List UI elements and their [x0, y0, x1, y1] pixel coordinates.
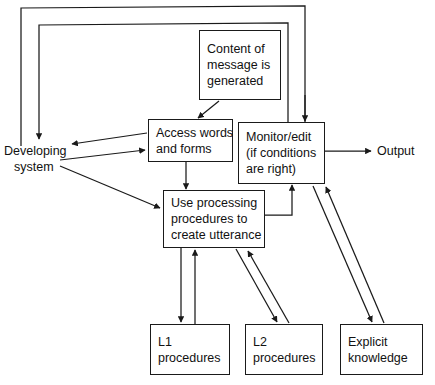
l1-procedures-box[interactable]: L1 procedures	[150, 324, 230, 375]
access-words-line-2: and forms	[156, 141, 232, 157]
access-words-line-1: Access words	[156, 125, 232, 141]
l2-procedures-box[interactable]: L2 procedures	[245, 324, 323, 375]
l1-line-2: procedures	[158, 350, 229, 366]
edge-use-processing-to-l2	[236, 249, 277, 322]
monitor-edit-line-1: Monitor/edit	[246, 129, 324, 145]
monitor-edit-line-2: (if conditions	[246, 145, 324, 161]
edge-l2-to-use-processing	[248, 251, 289, 323]
edge-developing-to-use-processing	[60, 166, 160, 208]
access-words-and-forms-box[interactable]: Access words and forms	[148, 119, 233, 162]
content-of-message-line-1: Content of	[207, 41, 280, 57]
explicit-knowledge-line-1: Explicit	[348, 334, 422, 350]
l2-line-1: L2	[253, 334, 322, 350]
content-of-message-line-3: generated	[207, 73, 280, 89]
explicit-knowledge-line-2: knowledge	[348, 350, 422, 366]
use-processing-line-3: create utterance	[171, 227, 264, 243]
edge-monitor-to-explicit	[313, 186, 372, 322]
content-of-message-line-2: message is	[207, 57, 280, 73]
use-processing-line-2: procedures to	[171, 211, 264, 227]
content-of-message-box[interactable]: Content of message is generated	[199, 30, 281, 100]
developing-system-line-1: Developing	[4, 143, 67, 159]
explicit-knowledge-box[interactable]: Explicit knowledge	[340, 324, 423, 375]
developing-system-line-2: system	[4, 159, 54, 175]
output-label: Output	[377, 143, 433, 159]
monitor-edit-line-3: are right)	[246, 161, 324, 177]
developing-system-label: Developing system	[4, 141, 74, 177]
edge-access-to-developing	[72, 133, 147, 144]
use-processing-procedures-box[interactable]: Use processing procedures to create utte…	[163, 190, 265, 248]
l1-line-1: L1	[158, 334, 229, 350]
edge-content-to-access	[198, 101, 219, 118]
flow-diagram: Content of message is generated Access w…	[0, 0, 435, 385]
l2-line-2: procedures	[253, 350, 322, 366]
edge-use-processing-to-monitor	[265, 185, 292, 215]
edge-explicit-to-monitor	[326, 187, 384, 323]
monitor-edit-box[interactable]: Monitor/edit (if conditions are right)	[238, 122, 325, 184]
output-text: Output	[377, 143, 415, 159]
use-processing-line-1: Use processing	[171, 195, 264, 211]
